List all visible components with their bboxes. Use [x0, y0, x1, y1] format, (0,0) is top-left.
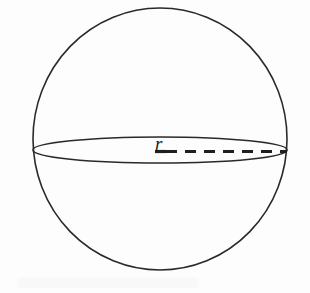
radius-label: r — [155, 134, 162, 153]
sphere-diagram-figure: r — [0, 0, 310, 293]
